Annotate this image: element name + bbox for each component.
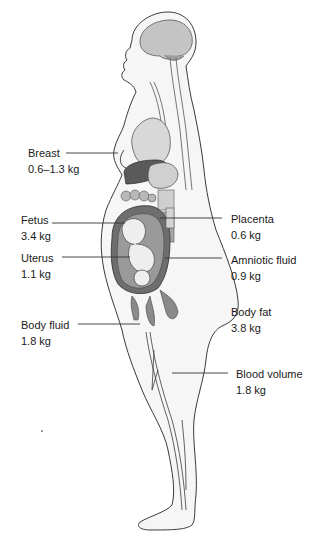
label-placenta: Placenta 0.6 kg — [231, 211, 274, 243]
label-breast-name: Breast — [28, 145, 79, 161]
label-body-fat-value: 3.8 kg — [231, 320, 271, 336]
label-blood-volume-value: 1.8 kg — [236, 382, 303, 398]
label-amniotic-fluid-name: Amniotic fluid — [231, 252, 296, 268]
label-body-fluid: Body fluid 1.8 kg — [21, 317, 69, 349]
stray-mark — [41, 430, 43, 432]
label-uterus: Uterus 1.1 kg — [21, 250, 53, 282]
label-breast: Breast 0.6–1.3 kg — [28, 145, 79, 177]
label-body-fluid-value: 1.8 kg — [21, 333, 69, 349]
label-placenta-value: 0.6 kg — [231, 227, 274, 243]
label-body-fat-name: Body fat — [231, 304, 271, 320]
label-body-fluid-name: Body fluid — [21, 317, 69, 333]
label-body-fat: Body fat 3.8 kg — [231, 304, 271, 336]
label-blood-volume: Blood volume 1.8 kg — [236, 366, 303, 398]
label-blood-volume-name: Blood volume — [236, 366, 303, 382]
label-amniotic-fluid-value: 0.9 kg — [231, 268, 296, 284]
label-placenta-name: Placenta — [231, 211, 274, 227]
diagram-canvas: Breast 0.6–1.3 kg Fetus 3.4 kg Uterus 1.… — [0, 0, 316, 548]
label-fetus-value: 3.4 kg — [21, 228, 51, 244]
label-fetus-name: Fetus — [21, 212, 51, 228]
label-breast-value: 0.6–1.3 kg — [28, 161, 79, 177]
label-fetus: Fetus 3.4 kg — [21, 212, 51, 244]
label-uterus-value: 1.1 kg — [21, 266, 53, 282]
label-amniotic-fluid: Amniotic fluid 0.9 kg — [231, 252, 296, 284]
label-uterus-name: Uterus — [21, 250, 53, 266]
stomach — [148, 163, 178, 189]
